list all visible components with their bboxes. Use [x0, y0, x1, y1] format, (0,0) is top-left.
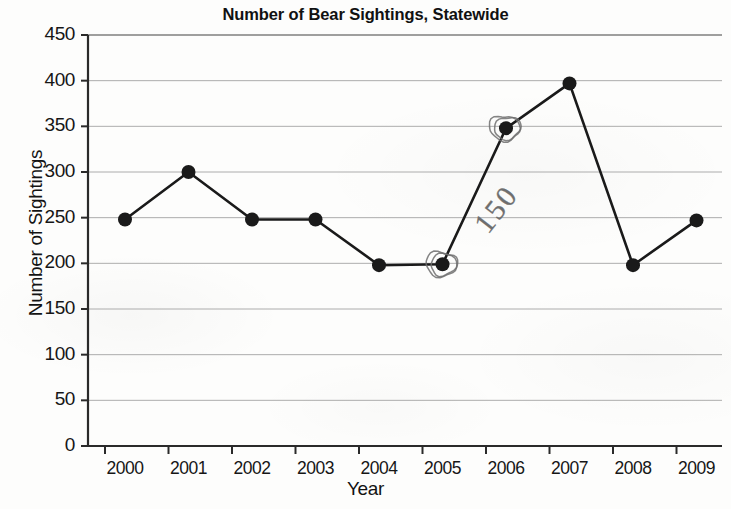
- x-axis-tick-label: 2004: [347, 458, 411, 479]
- x-axis-title: Year: [0, 478, 731, 500]
- x-axis-tick-label: 2003: [284, 458, 348, 479]
- data-point-marker: [372, 258, 386, 272]
- x-axis-ticks: [105, 446, 677, 454]
- plot-area: [0, 0, 731, 509]
- y-axis-tick-label: 450: [17, 23, 75, 45]
- x-axis-tick-label: 2005: [411, 458, 475, 479]
- data-point-marker: [245, 212, 259, 226]
- bear-sightings-line-chart: Number of Bear Sightings, Statewide 150 …: [0, 0, 731, 509]
- data-series: [118, 76, 704, 272]
- x-axis-tick-label: 2007: [538, 458, 602, 479]
- x-axis-tick-label: 2008: [601, 458, 665, 479]
- series-line: [125, 83, 697, 265]
- data-point-marker: [436, 257, 450, 271]
- x-axis-tick-label: 2000: [93, 458, 157, 479]
- y-axis-title: Number of Sightings: [25, 123, 47, 343]
- data-point-marker: [118, 212, 132, 226]
- axis-lines: [88, 35, 722, 446]
- x-axis-tick-label: 2002: [220, 458, 284, 479]
- data-point-marker: [499, 121, 513, 135]
- data-point-marker: [309, 212, 323, 226]
- data-point-marker: [690, 213, 704, 227]
- y-axis-tick-label: 100: [17, 343, 75, 365]
- x-axis-tick-label: 2006: [474, 458, 538, 479]
- data-point-marker: [182, 165, 196, 179]
- x-axis-tick-label: 2001: [157, 458, 221, 479]
- x-axis-tick-label: 2009: [665, 458, 729, 479]
- data-point-marker: [626, 258, 640, 272]
- y-axis-tick-label: 0: [17, 434, 75, 456]
- gridlines: [88, 35, 722, 400]
- data-point-marker: [563, 76, 577, 90]
- y-axis-tick-label: 50: [17, 388, 75, 410]
- series-markers: [118, 76, 704, 272]
- y-axis-tick-label: 400: [17, 69, 75, 91]
